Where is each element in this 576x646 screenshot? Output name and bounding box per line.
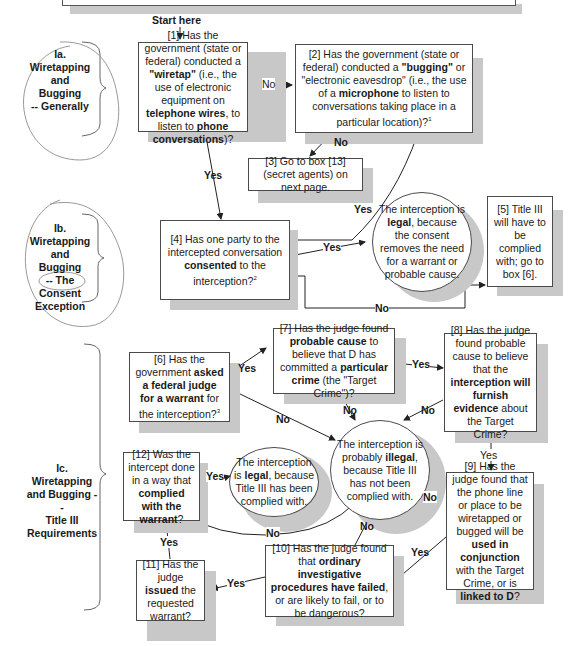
edge-label-b6-no: No bbox=[276, 413, 290, 425]
edge-label-b4-no: No bbox=[375, 302, 389, 314]
edge-label-b12-no: No bbox=[266, 527, 280, 539]
edge-label-b10-no: No bbox=[360, 520, 374, 532]
box-3-goto-13: [3] Go to box [13] (secret agents) on ne… bbox=[248, 158, 363, 191]
box-4-consent: [4] Has one party to the intercepted con… bbox=[160, 220, 290, 300]
box-6-asked-warrant: [6] Has the government asked a federal j… bbox=[129, 352, 230, 422]
box-2-bugging: [2] Has the government (state or federal… bbox=[295, 44, 473, 133]
box-5-title-iii: [5] Title III will have to be complied w… bbox=[487, 196, 553, 287]
section-label-Ib: Ib. Wiretapping and Bugging -- The Conse… bbox=[28, 222, 92, 313]
edge-label-b2-no: No bbox=[334, 136, 348, 148]
edge-label-b10-yes: Yes bbox=[227, 577, 245, 589]
edge-label-b8-no: No bbox=[421, 404, 435, 416]
box-8-furnish-evidence: [8] Has the judge found probable cause t… bbox=[444, 333, 537, 432]
legal-title3-circle: The interception is legal, because Title… bbox=[229, 447, 319, 517]
illegal-circle: The interception is probably illegal, be… bbox=[330, 420, 430, 520]
section-label-Ia: Ia. Wiretapping and Bugging -- Generally bbox=[28, 48, 92, 113]
edge-label-b8-yes: Yes bbox=[480, 449, 497, 461]
box-9-used-in-conjunction: [9] Has the judge found that the phone l… bbox=[446, 472, 534, 590]
edge-label-b7-yes: Yes bbox=[412, 358, 430, 370]
section-label-Ic: Ic. Wiretapping and Bugging -- Title III… bbox=[26, 462, 98, 540]
edge-label-b9-no: No bbox=[423, 491, 437, 503]
edge-label-b12-yes: Yes bbox=[206, 470, 224, 482]
edge-label-b1-yes: Yes bbox=[204, 169, 222, 181]
edge-label-b4-yes: Yes bbox=[323, 241, 341, 253]
edge-label-b6-yes: Yes bbox=[238, 362, 256, 374]
box-10-ordinary-procedures: [10] Has the judge found that ordinary i… bbox=[265, 545, 394, 617]
edge-label-b9-yes: Yes bbox=[411, 546, 429, 558]
edge-label-b1-no: No bbox=[262, 78, 275, 90]
edge-label-b2-yes: Yes bbox=[354, 203, 372, 215]
box-11-issued-warrant: [11] Has the judge issued the requested … bbox=[136, 560, 205, 621]
box-7-probable-cause: [7] Has the judge found probable cause t… bbox=[273, 328, 395, 394]
start-label: Start here bbox=[152, 14, 201, 26]
legal-consent-circle: The interception is legal, because the c… bbox=[372, 192, 472, 292]
box-12-complied-warrant: [12] Was the intercept done in a way tha… bbox=[123, 452, 200, 521]
box-1-wiretap: [1] Has the government (state or federal… bbox=[138, 42, 248, 132]
edge-label-b11-yes: Yes bbox=[160, 536, 178, 548]
edge-label-b7-no: No bbox=[343, 404, 357, 416]
